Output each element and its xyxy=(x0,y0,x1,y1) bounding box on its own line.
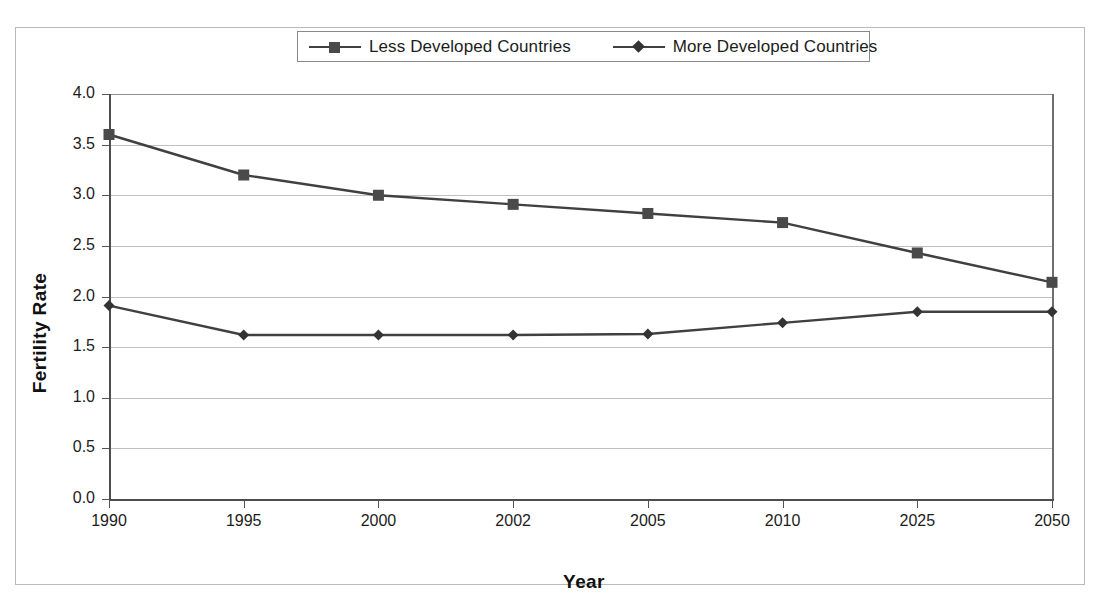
x-tick-mark xyxy=(244,500,245,508)
series-layer xyxy=(109,94,1054,501)
y-tick-label: 1.5 xyxy=(49,337,95,355)
series-more-developed xyxy=(104,300,1058,340)
square-marker-icon xyxy=(777,217,788,228)
diamond-marker-icon xyxy=(777,317,788,328)
y-tick-label: 0.5 xyxy=(49,438,95,456)
y-tick-label: 3.0 xyxy=(49,185,95,203)
y-tick-label: 2.5 xyxy=(49,236,95,254)
x-tick-label: 2002 xyxy=(473,512,553,530)
y-axis-title: Fertility Rate xyxy=(29,223,51,443)
x-tick-mark xyxy=(1052,500,1053,508)
square-marker-icon xyxy=(238,170,249,181)
series-line xyxy=(109,135,1052,283)
diamond-marker-icon xyxy=(912,306,923,317)
square-marker-icon xyxy=(642,208,653,219)
x-tick-label: 2010 xyxy=(743,512,823,530)
plot-area: 0.00.51.01.52.02.53.03.54.0 199019952000… xyxy=(109,94,1054,501)
legend-label-less-developed: Less Developed Countries xyxy=(369,37,571,57)
square-marker-icon xyxy=(373,190,384,201)
y-tick-label: 3.5 xyxy=(49,135,95,153)
square-marker-icon xyxy=(508,199,519,210)
legend-label-more-developed: More Developed Countries xyxy=(673,37,878,57)
x-tick-label: 1990 xyxy=(69,512,149,530)
y-tick-label: 0.0 xyxy=(49,489,95,507)
x-axis-title: Year xyxy=(109,571,1059,593)
x-tick-label: 2000 xyxy=(338,512,418,530)
y-tick-label: 4.0 xyxy=(49,84,95,102)
square-marker-icon xyxy=(912,247,923,258)
chart-legend: Less Developed Countries More Developed … xyxy=(297,31,870,62)
square-marker-icon xyxy=(104,129,115,140)
square-marker-icon xyxy=(1047,277,1058,288)
diamond-marker-icon xyxy=(373,329,384,340)
x-tick-label: 2025 xyxy=(877,512,957,530)
x-tick-mark xyxy=(648,500,649,508)
x-tick-mark xyxy=(513,500,514,508)
x-tick-mark xyxy=(783,500,784,508)
x-tick-label: 2005 xyxy=(608,512,688,530)
square-marker-icon xyxy=(309,40,361,54)
series-less-developed xyxy=(104,129,1058,288)
y-tick-label: 1.0 xyxy=(49,388,95,406)
chart-frame: Less Developed Countries More Developed … xyxy=(15,27,1085,585)
diamond-marker-icon xyxy=(508,329,519,340)
x-tick-label: 1995 xyxy=(204,512,284,530)
diamond-marker-icon xyxy=(613,40,665,54)
diamond-marker-icon xyxy=(642,328,653,339)
diamond-marker-icon xyxy=(104,300,115,311)
x-tick-mark xyxy=(109,500,110,508)
legend-entry-less-developed: Less Developed Countries xyxy=(309,37,571,57)
x-tick-label: 2050 xyxy=(1012,512,1092,530)
legend-entry-more-developed: More Developed Countries xyxy=(613,37,878,57)
series-line xyxy=(109,306,1052,335)
x-tick-mark xyxy=(917,500,918,508)
chart-figure: Less Developed Countries More Developed … xyxy=(0,0,1103,604)
diamond-marker-icon xyxy=(238,329,249,340)
diamond-marker-icon xyxy=(1047,306,1058,317)
x-tick-mark xyxy=(378,500,379,508)
y-tick-label: 2.0 xyxy=(49,287,95,305)
